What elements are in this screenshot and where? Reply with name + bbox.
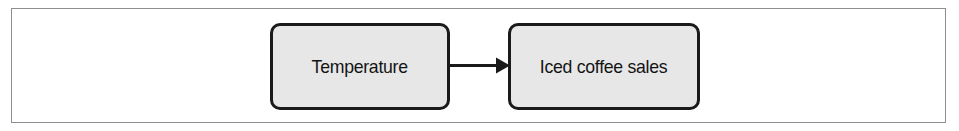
diagram-node-iced-coffee-sales-label: Iced coffee sales: [540, 56, 668, 78]
diagram-canvas: Temperature Iced coffee sales: [0, 0, 959, 131]
diagram-node-temperature: Temperature: [270, 23, 450, 110]
diagram-node-iced-coffee-sales: Iced coffee sales: [508, 23, 700, 110]
figure-root: Temperature Iced coffee sales: [0, 0, 959, 131]
arrow-right-icon: [448, 52, 510, 80]
diagram-node-temperature-label: Temperature: [312, 56, 408, 78]
